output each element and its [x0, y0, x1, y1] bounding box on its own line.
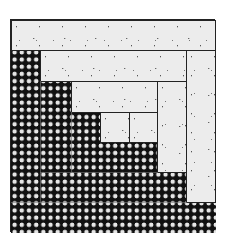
dark-seam-col-2 — [71, 112, 72, 173]
light-strip-right-1 — [186, 50, 216, 203]
light-strip-top-1 — [11, 20, 216, 51]
light-strip-right-3 — [129, 112, 158, 143]
light-strip-top-3 — [71, 81, 158, 113]
light-strip-top-2 — [40, 50, 187, 82]
light-strip-right-2 — [157, 81, 187, 173]
quilt-block — [10, 19, 215, 232]
dark-seam-row-1 — [40, 172, 158, 173]
dark-seam-col-1 — [40, 81, 41, 203]
light-center — [100, 112, 130, 143]
dark-seam-row-2 — [11, 202, 187, 203]
